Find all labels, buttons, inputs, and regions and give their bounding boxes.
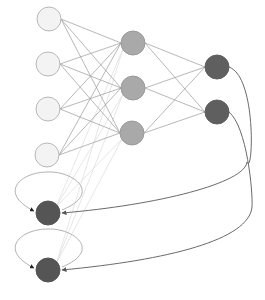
feedback-edge [62,67,251,213]
input-node [37,7,61,31]
feedback-edge [62,112,252,270]
hidden-node [121,76,145,100]
hidden-node [120,121,144,145]
input-hidden-edge [59,43,121,155]
input-node [36,52,60,76]
context-hidden-edge [56,94,123,207]
hidden-node [121,31,145,55]
context-hidden-edge [56,49,123,207]
input-hidden-edge [61,19,121,43]
network-graph [0,0,265,300]
hidden-output-edge [145,88,205,112]
nodes [35,7,229,282]
hidden-output-edge [145,67,205,88]
input-node [35,143,59,167]
context-node [36,201,60,225]
input-hidden-edge [60,43,121,64]
hidden-output-edge [145,43,205,67]
output-node [205,100,229,124]
context-hidden-edge [56,139,122,207]
hidden-output-edge [144,112,205,133]
rnn-diagram [0,0,265,300]
output-node [205,55,229,79]
context-node [36,258,60,282]
input-hidden-edge [59,133,120,155]
input-node [36,97,60,121]
